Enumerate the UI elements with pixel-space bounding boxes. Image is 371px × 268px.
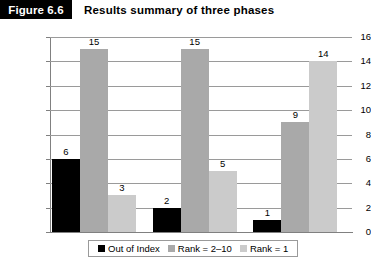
bar-value-label: 5 [203,159,243,169]
y-tick-label: 16 [331,32,371,42]
bar-chart: 615321551914 Out of IndexRank = 2–10Rank… [0,24,371,268]
y-tick-label: 14 [331,56,371,66]
bar [80,49,108,232]
legend-label: Rank = 2–10 [178,244,232,254]
y-tick-mark [46,61,50,62]
bar-value-label: 3 [102,183,142,193]
y-tick-label: 4 [331,178,371,188]
y-tick-label: 2 [331,203,371,213]
legend-swatch-icon [168,245,175,252]
legend-swatch-icon [98,245,105,252]
legend-item[interactable]: Rank = 2–10 [168,244,232,254]
y-tick-mark [46,232,50,233]
legend-item[interactable]: Rank = 1 [240,244,288,254]
y-tick-label: 0 [331,227,371,237]
plot-area: 615321551914 [50,37,352,232]
y-tick-label: 8 [331,130,371,140]
y-tick-label: 12 [331,81,371,91]
y-axis-ticks [0,37,44,233]
figure-caption-bar: Figure 6.6 Results summary of three phas… [0,0,371,20]
chart-legend: Out of IndexRank = 2–10Rank = 1 [88,240,298,257]
bar-value-label: 15 [175,37,215,47]
figure-title: Results summary of three phases [84,0,274,19]
y-tick-mark [46,37,50,38]
bar [281,122,309,232]
legend-swatch-icon [240,245,247,252]
legend-item[interactable]: Out of Index [98,244,160,254]
legend-label: Rank = 1 [250,244,288,254]
legend-label: Out of Index [108,244,160,254]
figure-number-tag: Figure 6.6 [0,0,72,19]
y-tick-label: 10 [331,105,371,115]
bar [153,208,181,232]
x-axis-line [50,232,353,233]
figure-root: Figure 6.6 Results summary of three phas… [0,0,371,268]
bar [253,220,281,232]
y-tick-mark [46,86,50,87]
bar [209,171,237,232]
bar [108,195,136,232]
y-tick-mark [46,208,50,209]
y-tick-mark [46,110,50,111]
y-tick-label: 6 [331,154,371,164]
bar-value-label: 15 [74,37,114,47]
y-tick-mark [46,159,50,160]
bar [181,49,209,232]
y-tick-mark [46,183,50,184]
y-tick-mark [46,135,50,136]
bar [52,159,80,232]
